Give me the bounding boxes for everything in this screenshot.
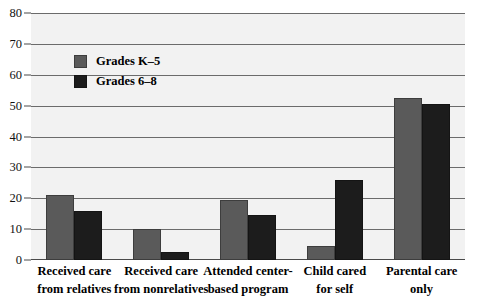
y-tick-label: 80	[10, 6, 23, 21]
x-axis-labels: Received carefrom relativesReceived care…	[31, 262, 465, 306]
y-tickmark-10	[24, 229, 31, 230]
y-tickmark-40	[24, 136, 31, 137]
y-axis: 01020304050607080	[0, 0, 31, 260]
y-tick-label: 0	[16, 253, 22, 268]
bar	[74, 211, 102, 260]
x-axis-label-line: Attended center-	[199, 262, 298, 280]
y-tick-label: 40	[10, 129, 23, 144]
bar	[220, 200, 248, 260]
bar	[46, 195, 74, 260]
bar	[394, 98, 422, 260]
y-tickmark-60	[24, 74, 31, 75]
x-axis-label: Attended center-based program	[199, 262, 298, 298]
y-tick-label: 30	[10, 160, 23, 175]
gridline-70	[31, 44, 465, 45]
x-axis-label-line: Child cared	[285, 262, 384, 280]
bar-chart: 01020304050607080 Grades K–5Grades 6–8 R…	[0, 0, 494, 306]
legend-label: Grades K–5	[96, 54, 160, 69]
x-axis-label-line: Parental care	[372, 262, 471, 280]
x-axis-label: Received carefrom nonrelatives	[112, 262, 211, 298]
chart-legend: Grades K–5Grades 6–8	[74, 52, 160, 92]
y-tick-label: 50	[10, 98, 23, 113]
y-tick-label: 10	[10, 222, 23, 237]
y-tickmark-0	[24, 260, 31, 261]
bar	[133, 229, 161, 260]
bar	[248, 215, 276, 260]
x-axis-label-line: from nonrelatives	[112, 280, 211, 298]
legend-label: Grades 6–8	[96, 74, 157, 89]
y-tickmark-20	[24, 198, 31, 199]
legend-swatch	[74, 75, 87, 88]
x-axis-label: Received carefrom relatives	[25, 262, 124, 298]
legend-item: Grades K–5	[74, 52, 160, 70]
y-tick-label: 20	[10, 191, 23, 206]
y-tick-label: 60	[10, 67, 23, 82]
legend-swatch	[74, 55, 87, 68]
x-axis-label-line: based program	[199, 280, 298, 298]
x-axis-label: Child caredfor self	[285, 262, 384, 298]
bar	[422, 104, 450, 260]
y-tickmark-80	[24, 13, 31, 14]
x-axis-label-line: Received care	[25, 262, 124, 280]
y-tick-label: 70	[10, 36, 23, 51]
legend-item: Grades 6–8	[74, 72, 160, 90]
plot-area	[31, 13, 465, 260]
bar	[335, 180, 363, 260]
bar	[307, 246, 335, 260]
x-axis-label-line: from relatives	[25, 280, 124, 298]
gridline-80	[31, 13, 465, 14]
y-tickmark-50	[24, 105, 31, 106]
x-axis-label-line: only	[372, 280, 471, 298]
y-tickmark-70	[24, 43, 31, 44]
x-axis-label-line: for self	[285, 280, 384, 298]
x-axis-label-line: Received care	[112, 262, 211, 280]
x-axis-label: Parental careonly	[372, 262, 471, 298]
bar	[161, 252, 189, 260]
y-tickmark-30	[24, 167, 31, 168]
